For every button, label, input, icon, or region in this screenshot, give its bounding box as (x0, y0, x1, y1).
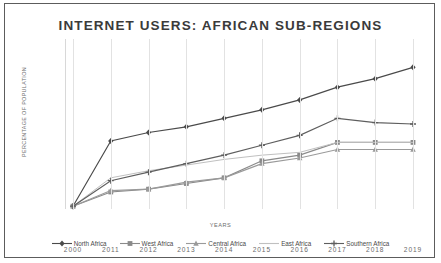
gridline (300, 39, 301, 209)
x-tick-label: 2017 (317, 246, 357, 253)
chart-title: INTERNET USERS: AFRICAN SUB-REGIONS (5, 18, 436, 33)
x-tick-label: 2016 (280, 246, 320, 253)
gridline (224, 39, 225, 209)
legend-item-north-africa[interactable]: North Africa (52, 240, 107, 247)
legend-item-west-africa[interactable]: West Africa (120, 240, 174, 247)
legend-swatch-square-icon (120, 240, 140, 247)
y-axis-label: PERCENTAGE OF POPULATION (21, 37, 27, 187)
gridline (111, 39, 112, 209)
gridline (413, 39, 414, 209)
plot-area: 0102030405060 20002011201220132014201520… (65, 39, 417, 209)
legend-swatch-line-icon (259, 240, 279, 247)
series-east-africa (73, 142, 413, 206)
legend-label: North Africa (74, 240, 107, 247)
legend-swatch-triangle-icon (186, 240, 206, 247)
series-lines (65, 39, 417, 209)
chart-frame: INTERNET USERS: AFRICAN SUB-REGIONS PERC… (4, 3, 435, 258)
x-tick-label: 2018 (355, 246, 395, 253)
legend-label: East Africa (281, 240, 311, 247)
series-central-africa (70, 147, 416, 209)
legend-swatch-diamond-icon (52, 240, 72, 247)
legend-label: Central Africa (208, 240, 246, 247)
x-tick-label: 2014 (204, 246, 244, 253)
gridline (186, 39, 187, 209)
x-tick-label: 2013 (166, 246, 206, 253)
legend-item-central-africa[interactable]: Central Africa (186, 240, 246, 247)
y-axis-line (65, 39, 66, 209)
x-tick-label: 2015 (242, 246, 282, 253)
legend-label: Southern Africa (346, 240, 389, 247)
x-tick-label: 2000 (53, 246, 93, 253)
series-southern-africa (70, 115, 416, 209)
chart-legend: North AfricaWest AfricaCentral AfricaEas… (5, 240, 436, 247)
x-tick-label: 2011 (91, 246, 131, 253)
legend-item-southern-africa[interactable]: Southern Africa (324, 240, 389, 247)
gridline (73, 39, 74, 209)
x-tick-label: 2012 (129, 246, 169, 253)
legend-label: West Africa (142, 240, 174, 247)
legend-swatch-cross-icon (324, 240, 344, 247)
gridline (149, 39, 150, 209)
gridline (375, 39, 376, 209)
gridline (337, 39, 338, 209)
series-north-africa (70, 64, 415, 209)
x-tick-label: 2019 (393, 246, 433, 253)
x-axis-label: YEARS (5, 222, 436, 228)
gridline (262, 39, 263, 209)
legend-item-east-africa[interactable]: East Africa (259, 240, 311, 247)
